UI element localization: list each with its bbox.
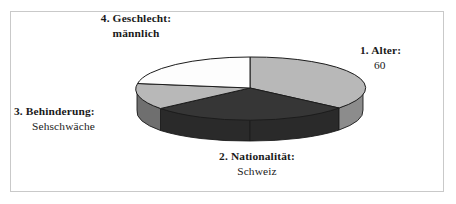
pie-label-geschlecht-line1: 4. Geschlecht: — [66, 11, 206, 26]
figure-canvas: 4. Geschlecht: männlich 1. Alter: 60 3. … — [0, 0, 456, 204]
pie-label-nationalitaet: 2. Nationalität: Schweiz — [182, 149, 332, 178]
pie-label-alter: 1. Alter: 60 — [360, 43, 452, 72]
pie-label-geschlecht-line2: männlich — [66, 26, 206, 41]
pie-label-behinderung-line1: 3. Behinderung: — [14, 104, 154, 119]
pie-label-behinderung: 3. Behinderung: Sehschwäche — [14, 104, 154, 133]
pie-slice-geschlecht — [138, 57, 250, 88]
pie-label-nationalitaet-line2: Schweiz — [182, 164, 332, 179]
pie-label-geschlecht: 4. Geschlecht: männlich — [66, 11, 206, 40]
pie-label-alter-line1: 1. Alter: — [360, 43, 452, 58]
pie-label-alter-line2: 60 — [374, 58, 452, 73]
pie-label-behinderung-line2: Sehschwäche — [32, 119, 154, 134]
pie-label-nationalitaet-line1: 2. Nationalität: — [182, 149, 332, 164]
